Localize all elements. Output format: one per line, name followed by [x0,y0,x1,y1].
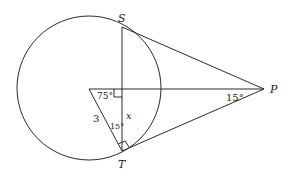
right-angle-marker-f [114,89,122,97]
tangent-line-sp [122,27,264,89]
geometry-diagram: S T P 75° 15° 15° 3 x [0,0,299,180]
label-segment-x: x [126,110,132,121]
label-t: T [118,158,127,171]
label-side-at: 3 [93,113,99,124]
circle [17,16,161,160]
label-p: P [269,83,278,96]
label-angle-t: 15° [110,122,124,131]
label-angle-p: 15° [226,92,244,103]
label-angle-a: 75° [97,91,113,101]
label-s: S [118,12,126,25]
